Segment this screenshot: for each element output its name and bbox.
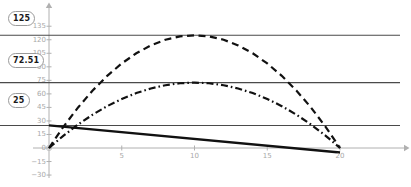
y-axis-tick-label: 75 [24, 76, 46, 84]
value-bubble-ref-72.51[interactable]: 72.51 [8, 53, 44, 68]
y-axis-tick-label: −15 [24, 158, 46, 166]
chart-canvas: 1351201059075604530150−15−30510152012572… [0, 0, 411, 187]
x-axis-tick-label: 5 [112, 152, 132, 160]
value-bubble-ref-25[interactable]: 25 [8, 93, 30, 108]
series-upper-parabola [49, 35, 340, 148]
y-axis-tick-label: 0 [24, 144, 46, 152]
x-axis-tick-label: 10 [185, 152, 205, 160]
y-axis-tick-label: 30 [24, 117, 46, 125]
x-axis-tick-label: 15 [257, 152, 277, 160]
y-axis-arrow [46, 3, 52, 9]
x-axis-arrow [404, 145, 410, 151]
y-axis-tick-label: 15 [24, 130, 46, 138]
y-axis-tick-label: 120 [24, 36, 46, 44]
y-axis-tick-label: −30 [24, 171, 46, 179]
x-axis-tick-label: 20 [330, 152, 350, 160]
value-bubble-ref-125[interactable]: 125 [8, 11, 35, 26]
